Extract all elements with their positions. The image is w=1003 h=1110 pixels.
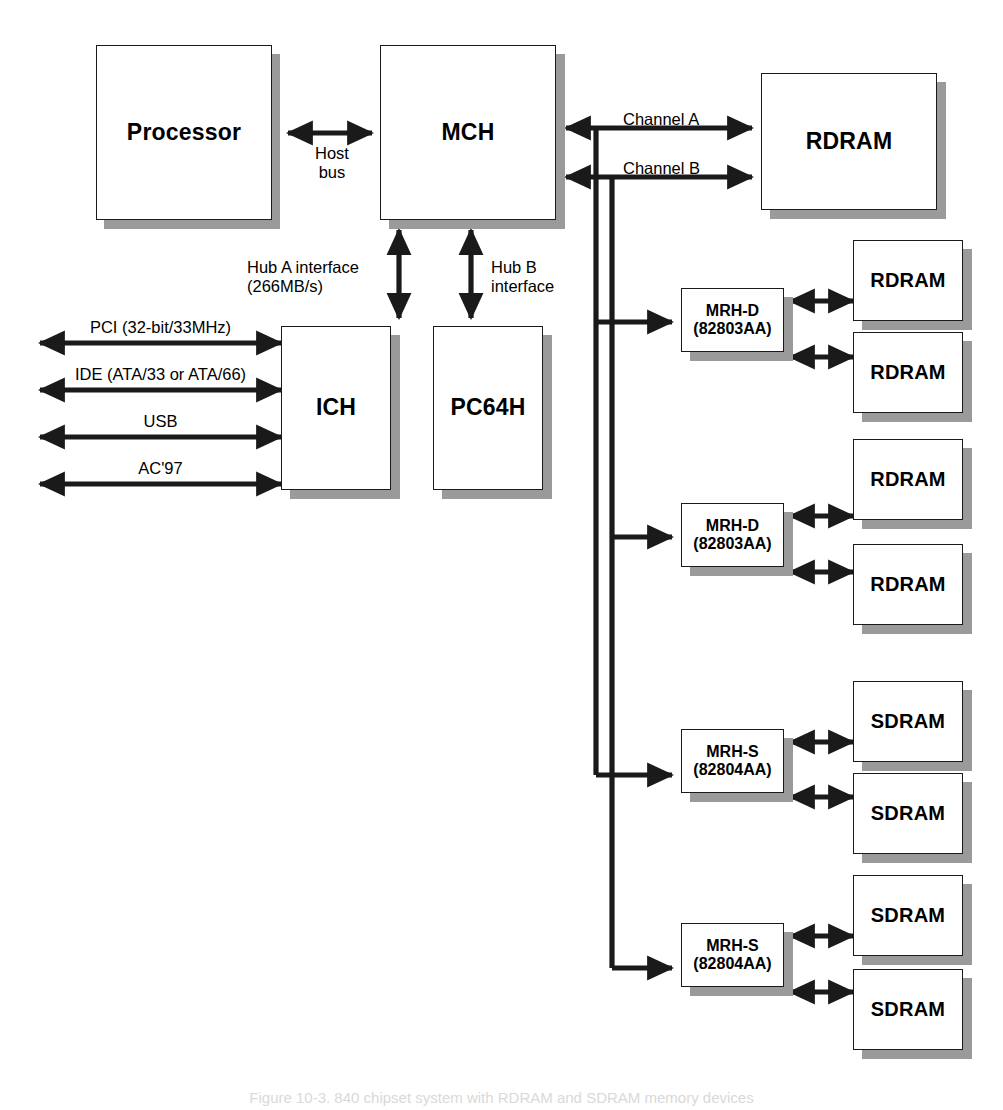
block-rdram-1-label: RDRAM [870,269,945,291]
block-rdram-4-label: RDRAM [870,573,945,595]
block-mrh-s-2-partnumber: (82804AA) [693,955,771,973]
block-mrh-d-1[interactable]: MRH-D (82803AA) [681,288,784,352]
block-rdram-2[interactable]: RDRAM [853,332,963,413]
label-hub-a-line1: Hub A interface [247,258,359,277]
block-mrh-d-2[interactable]: MRH-D (82803AA) [681,503,784,567]
block-sdram-4-label: SDRAM [871,998,945,1020]
block-rdram-2-label: RDRAM [870,361,945,383]
block-mrh-s-2-name: MRH-S [693,937,771,955]
block-pc64h-label: PC64H [450,395,525,421]
block-mrh-d-2-partnumber: (82803AA) [693,535,771,553]
block-processor[interactable]: Processor [96,45,272,220]
block-rdram-4[interactable]: RDRAM [853,544,963,625]
block-ich-label: ICH [316,395,356,421]
block-sdram-1-label: SDRAM [871,710,945,732]
block-processor-label: Processor [127,120,241,146]
block-sdram-1[interactable]: SDRAM [853,681,963,762]
block-mrh-s-2[interactable]: MRH-S (82804AA) [681,923,784,987]
label-host-bus-line1: Host [296,144,368,163]
label-hub-b-line2: interface [491,277,554,296]
block-mrh-d-1-partnumber: (82803AA) [693,320,771,338]
label-host-bus-line2: bus [296,163,368,182]
block-rdram-1[interactable]: RDRAM [853,240,963,321]
block-mrh-d-1-name: MRH-D [693,302,771,320]
block-rdram-3[interactable]: RDRAM [853,439,963,520]
block-mrh-s-1[interactable]: MRH-S (82804AA) [681,729,784,793]
block-mrh-s-1-partnumber: (82804AA) [693,761,771,779]
block-mch[interactable]: MCH [380,45,556,220]
label-ac97-bus: AC'97 [40,459,281,478]
label-hub-a-interface: Hub A interface (266MB/s) [247,258,359,297]
block-mrh-s-1-name: MRH-S [693,743,771,761]
block-sdram-4[interactable]: SDRAM [853,969,963,1050]
block-rdram-3-label: RDRAM [870,468,945,490]
block-rdram-main-label: RDRAM [806,129,893,155]
label-channel-a: Channel A [623,110,699,129]
label-hub-a-line2: (266MB/s) [247,277,359,296]
label-host-bus: Host bus [296,144,368,183]
label-ide-bus: IDE (ATA/33 or ATA/66) [36,365,285,384]
figure-caption-text: Figure 10-3. 840 chipset system with RDR… [0,1092,1003,1106]
block-diagram: Processor MCH RDRAM ICH PC64H MRH-D (828… [0,0,1003,1110]
block-ich[interactable]: ICH [281,326,391,490]
label-channel-b: Channel B [623,159,700,178]
block-sdram-3-label: SDRAM [871,904,945,926]
label-usb-bus: USB [40,412,281,431]
block-sdram-2-label: SDRAM [871,802,945,824]
block-mrh-d-2-name: MRH-D [693,517,771,535]
block-pc64h[interactable]: PC64H [433,326,543,490]
block-rdram-main[interactable]: RDRAM [761,73,937,210]
block-mch-label: MCH [442,120,495,146]
label-hub-b-interface: Hub B interface [491,258,554,297]
block-sdram-2[interactable]: SDRAM [853,773,963,854]
block-sdram-3[interactable]: SDRAM [853,875,963,956]
label-pci-bus: PCI (32-bit/33MHz) [40,318,281,337]
label-hub-b-line1: Hub B [491,258,554,277]
figure-caption: Figure 10-3. 840 chipset system with RDR… [0,1092,1003,1110]
